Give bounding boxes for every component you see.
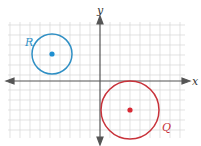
circle-q-center [127,107,132,112]
y-axis-arrow-down-icon [97,137,103,145]
x-axis-arrow-right-icon [182,78,190,84]
y-axis-arrow-up-icon [97,16,103,24]
x-axis-label: x [192,75,199,88]
circle-r: R [24,34,72,74]
grid [8,22,185,138]
coordinate-plane: x y R Q [0,0,201,146]
circle-r-center [49,51,54,56]
circle-q-label: Q [162,121,171,134]
x-axis-arrow-left-icon [6,78,14,84]
y-axis-label: y [96,4,104,17]
circle-r-label: R [24,36,33,49]
